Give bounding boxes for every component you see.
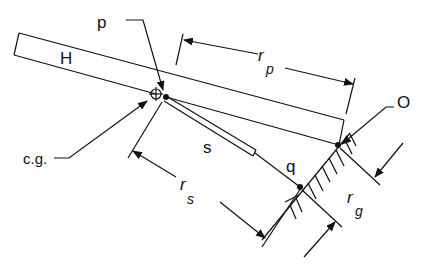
- cg-symbol: [149, 87, 163, 101]
- label-h: H: [60, 49, 72, 68]
- label-s: s: [203, 138, 212, 157]
- link-p-o: [166, 97, 339, 145]
- o-leader: [342, 107, 394, 144]
- label-q: q: [286, 157, 295, 176]
- label-rp-sub: p: [265, 61, 274, 77]
- p-leader: [126, 20, 163, 90]
- label-rs-sub: s: [187, 191, 194, 207]
- point-q: [297, 184, 303, 190]
- label-rg-sub: g: [355, 203, 363, 219]
- point-o: [335, 142, 341, 148]
- label-cg: c.g.: [23, 150, 47, 167]
- label-rg: r: [347, 188, 354, 207]
- point-p: [163, 94, 169, 100]
- label-rp: r: [258, 46, 265, 65]
- label-rs: r: [180, 175, 187, 194]
- rod-s: [164, 96, 300, 187]
- rs-dimension: [128, 102, 301, 247]
- label-p: p: [97, 13, 106, 32]
- mechanism-diagram: p H r p O c.g. s q r s r g: [0, 0, 430, 268]
- label-o: O: [397, 93, 410, 112]
